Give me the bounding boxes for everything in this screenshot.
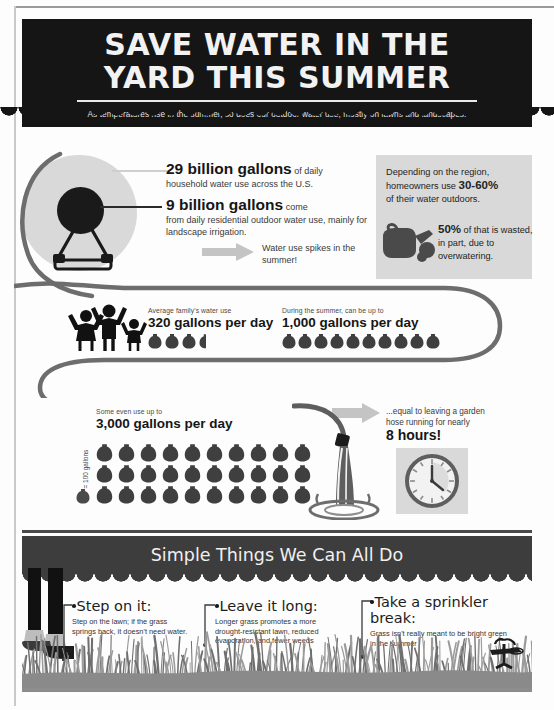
bucket-icon <box>162 485 179 504</box>
hose-nozzle-graphic <box>292 402 390 520</box>
bucket-icon <box>140 485 157 504</box>
page-top-rule <box>14 6 554 8</box>
stat-1000-gallons: During the summer, can be up to 1,000 ga… <box>282 307 482 349</box>
leader-line-29 <box>112 170 170 172</box>
leader-line-9 <box>100 206 162 208</box>
tip-1-head-text: Step on it: <box>77 598 152 614</box>
bucket-icon <box>410 333 424 349</box>
bullet-dot-icon <box>72 604 76 608</box>
family-value: 320 gallons per day <box>148 315 288 330</box>
summer-bucket-row <box>282 333 482 349</box>
page-title: SAVE WATER IN THE YARD THIS SUMMER <box>22 19 532 94</box>
simple-scallop-edge <box>22 573 532 585</box>
bucket-icon <box>140 464 157 483</box>
region-line-2-pre: homeowners use <box>386 181 459 191</box>
spike-text: Water use spikes in the summer! <box>262 242 382 266</box>
stat-320-gallons: Average family's water use 320 gallons p… <box>148 307 288 349</box>
family-icon-group <box>64 303 150 351</box>
bucket-icon <box>206 485 223 504</box>
header-scallop-edge <box>0 107 554 120</box>
bucket-grid-row <box>96 443 318 462</box>
stat-9-inline: come <box>283 202 308 212</box>
bucket-icon <box>362 333 376 349</box>
bucket-icon <box>250 464 267 483</box>
bullet-dot-icon-3 <box>370 600 374 604</box>
equiv-line-1: ...equal to leaving a garden <box>386 406 536 417</box>
arrow-right-icon <box>202 243 254 261</box>
bucket-grid-row <box>96 464 318 483</box>
tip-1-heading: Step on it: <box>72 598 190 614</box>
tip-3-head-text: Take a sprinkler break: <box>370 594 488 626</box>
bucket-icon <box>228 464 245 483</box>
stat-9-sub: from daily residential outdoor water use… <box>166 215 381 238</box>
bucket-icon <box>282 333 296 349</box>
bullet-dot-icon-2 <box>215 604 219 608</box>
bucket-icon <box>378 333 392 349</box>
bucket-icon <box>162 464 179 483</box>
bucket-icon <box>426 333 440 349</box>
simple-things-title: Simple Things We Can All Do <box>22 536 532 574</box>
bucket-icon <box>96 485 113 504</box>
bucket-icon <box>165 333 179 349</box>
tip-3-heading: Take a sprinkler break: <box>370 594 510 626</box>
bucket-icon <box>206 464 223 483</box>
bucket-legend: = 100 gallons <box>76 432 90 494</box>
bucket-icon <box>346 333 360 349</box>
legend-bucket-icon <box>76 488 90 504</box>
family-label: Average family's water use <box>148 307 288 314</box>
bucket-icon <box>96 443 113 462</box>
stat-29-billion: 29 billion gallons of daily household wa… <box>166 160 376 191</box>
bucket-icon <box>206 443 223 462</box>
family-bucket-row <box>148 333 288 349</box>
bucket-icon <box>272 464 289 483</box>
bucket-grid-row <box>96 485 318 504</box>
bucket-icon <box>184 485 201 504</box>
ground-line <box>22 688 532 691</box>
bucket-icon <box>162 443 179 462</box>
summer-value: 1,000 gallons per day <box>282 315 482 330</box>
wasted-block: 50% of that is wasted, in part, due to o… <box>438 223 534 263</box>
summer-label: During the summer, can be up to <box>282 307 482 314</box>
bucket-icon <box>330 333 344 349</box>
bucket-icon <box>184 464 201 483</box>
title-line-1: SAVE WATER IN THE <box>22 28 532 61</box>
stat-29-value: 29 billion gallons <box>166 160 292 177</box>
bottom-sprinkler-icon <box>486 638 526 672</box>
bucket-icon <box>148 333 162 349</box>
stat-29-inline: of daily <box>292 166 323 176</box>
bucket-icon <box>272 443 289 462</box>
region-text: Depending on the region, homeowners use … <box>386 166 522 206</box>
section-divider <box>22 530 532 533</box>
title-divider <box>77 100 477 102</box>
bucket-icon <box>118 464 135 483</box>
region-line-1: Depending on the region, <box>386 167 489 177</box>
region-line-3: of their water outdoors. <box>386 194 480 204</box>
stat-9-value: 9 billion gallons <box>166 196 283 213</box>
bucket-icon <box>184 443 201 462</box>
half-bucket-icon <box>199 333 206 349</box>
grass-graphic <box>22 630 532 692</box>
title-line-2: YARD THIS SUMMER <box>22 61 532 94</box>
bucket-icon <box>118 443 135 462</box>
clock-icon <box>402 452 462 510</box>
bucket-icon <box>96 464 113 483</box>
bucket-icon <box>314 333 328 349</box>
region-percent: 30-60% <box>459 179 499 191</box>
stat-9-billion: 9 billion gallons come from daily reside… <box>166 196 381 238</box>
hose-equivalent-text: ...equal to leaving a garden hose runnin… <box>386 406 536 441</box>
bucket-icon <box>140 443 157 462</box>
wasted-text: 50% of that is wasted, in part, due to o… <box>438 223 534 263</box>
bucket-icon <box>228 443 245 462</box>
stat-29-sub: household water use across the U.S. <box>166 179 376 191</box>
bucket-icon <box>118 485 135 504</box>
simple-things-banner: Simple Things We Can All Do <box>22 536 532 574</box>
bucket-icon <box>272 485 289 504</box>
bucket-legend-label: = 100 gallons <box>82 427 89 489</box>
bucket-icon <box>250 485 267 504</box>
extreme-bucket-grid <box>96 443 318 506</box>
bucket-icon <box>394 333 408 349</box>
tip-2-heading: Leave it long: <box>215 598 345 614</box>
sprinkler-tripod-icon <box>44 210 122 274</box>
tip-2-head-text: Leave it long: <box>220 598 318 614</box>
watering-can-icon <box>381 222 437 264</box>
